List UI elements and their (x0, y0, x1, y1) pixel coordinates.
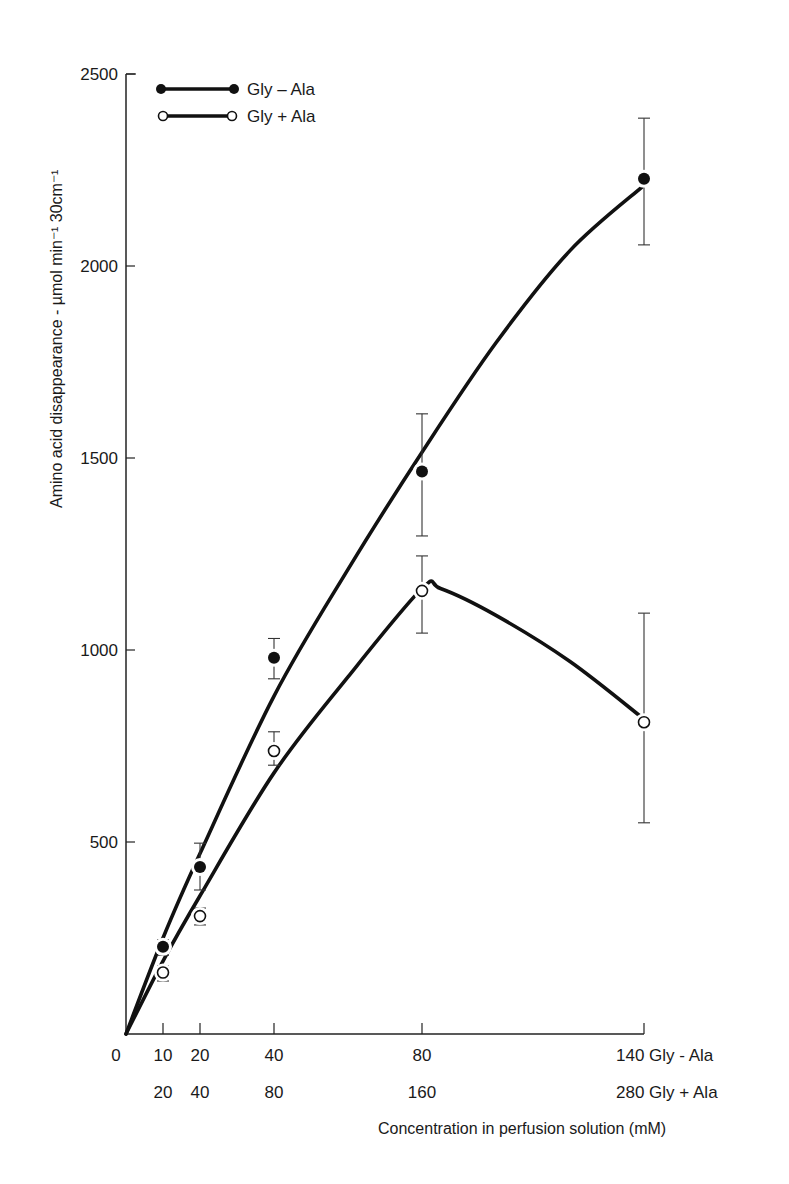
axes: 5001000150020002500010202040408080160140… (80, 65, 718, 1102)
x-tick-label-row2: 40 (191, 1083, 210, 1102)
open-circle-marker (269, 745, 280, 756)
legend-label: Gly – Ala (247, 80, 316, 99)
open-circle-icon (159, 112, 168, 121)
filled-circle-marker (268, 652, 280, 664)
line-chart: 5001000150020002500010202040408080160140… (0, 0, 789, 1184)
filled-circle-marker (194, 861, 206, 873)
x-tick-label: 40 (265, 1046, 284, 1065)
x-tick-label: 20 (191, 1046, 210, 1065)
legend-item-gly-plus-ala: Gly + Ala (159, 107, 317, 126)
error-bars (157, 118, 650, 981)
x-axis-title: Concentration in perfusion solution (mM) (378, 1120, 666, 1137)
legend-item-gly-minus-ala: Gly – Ala (156, 80, 316, 99)
x-tick-label-row2: 20 (154, 1083, 173, 1102)
y-tick-label: 500 (90, 833, 118, 852)
x-tick-label: 10 (154, 1046, 173, 1065)
open-circle-marker (639, 717, 650, 728)
curve-gly-minus-ala (126, 185, 644, 1034)
x-tick-label: 80 (413, 1046, 432, 1065)
legend-label: Gly + Ala (247, 107, 316, 126)
x-tick-label: 0 (111, 1046, 120, 1065)
x-tick-label-row2: 160 (408, 1083, 436, 1102)
y-tick-label: 1000 (80, 641, 118, 660)
legend: Gly – Ala Gly + Ala (156, 80, 316, 126)
filled-circle-icon (156, 84, 166, 94)
fitted-curves (126, 185, 644, 1034)
y-tick-label: 2500 (80, 65, 118, 84)
x-tick-label-row2: 80 (265, 1083, 284, 1102)
open-circle-marker (158, 967, 169, 978)
y-tick-label: 1500 (80, 449, 118, 468)
filled-circle-icon (229, 84, 239, 94)
filled-circle-marker (638, 173, 650, 185)
y-axis-title: Amino acid disappearance - µmol min⁻¹ 30… (48, 170, 65, 508)
filled-circle-marker (157, 941, 169, 953)
open-circle-icon (228, 112, 237, 121)
x-tick-label: 140 Gly - Ala (616, 1046, 714, 1065)
y-tick-label: 2000 (80, 257, 118, 276)
open-circle-marker (417, 585, 428, 596)
filled-circle-marker (416, 465, 428, 477)
data-points (154, 170, 653, 982)
open-circle-marker (195, 911, 206, 922)
x-tick-label-row2: 280 Gly + Ala (616, 1083, 718, 1102)
curve-gly-plus-ala (126, 581, 644, 1034)
